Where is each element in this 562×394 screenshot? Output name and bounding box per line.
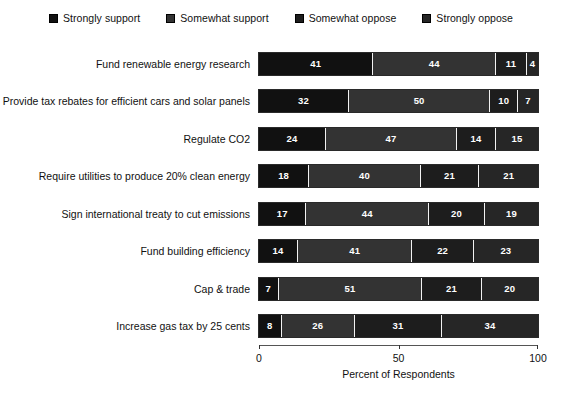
bar-row: 14412223: [259, 233, 538, 271]
bar-segment[interactable]: 8: [259, 315, 282, 337]
category-label: Fund building efficiency: [140, 245, 250, 257]
legend-item[interactable]: Somewhat support: [166, 13, 268, 24]
bar-row: 3250107: [259, 83, 538, 121]
bar-segment[interactable]: 4: [527, 53, 538, 75]
bar-segment[interactable]: 44: [306, 203, 429, 225]
stacked-bar[interactable]: 8263134: [259, 315, 538, 337]
chart-legend: Strongly supportSomewhat supportSomewhat…: [0, 13, 562, 24]
bar-value-label: 26: [312, 321, 323, 331]
legend-swatch-icon: [166, 14, 175, 23]
legend-label: Somewhat oppose: [309, 13, 397, 24]
bar-segment[interactable]: 22: [412, 240, 473, 262]
bar-segment[interactable]: 7: [259, 278, 279, 300]
category-label-row: Fund renewable energy research: [0, 45, 255, 83]
category-label: Sign international treaty to cut emissio…: [61, 208, 250, 220]
bar-segment[interactable]: 11: [496, 53, 527, 75]
bar-segment[interactable]: 24: [259, 128, 326, 150]
bar-segment[interactable]: 32: [259, 90, 349, 112]
stacked-bar[interactable]: 4144114: [259, 53, 538, 75]
bar-value-label: 44: [362, 209, 373, 219]
stacked-bar[interactable]: 3250107: [259, 90, 538, 112]
bar-segment[interactable]: 21: [421, 165, 480, 187]
category-label: Require utilities to produce 20% clean e…: [39, 170, 250, 182]
bar-row: 4144114: [259, 45, 538, 83]
category-label: Fund renewable energy research: [96, 58, 250, 70]
bar-value-label: 21: [503, 171, 514, 181]
x-axis-title: Percent of Respondents: [259, 368, 538, 380]
bar-value-label: 7: [266, 284, 271, 294]
bar-row: 8263134: [259, 308, 538, 346]
category-label-row: Increase gas tax by 25 cents: [0, 308, 255, 346]
bar-segment[interactable]: 15: [496, 128, 538, 150]
bar-segment[interactable]: 41: [298, 240, 412, 262]
legend-label: Somewhat support: [180, 13, 268, 24]
bar-value-label: 51: [345, 284, 356, 294]
stacked-bar[interactable]: 14412223: [259, 240, 538, 262]
bar-value-label: 4: [530, 59, 535, 69]
bar-value-label: 22: [437, 246, 448, 256]
bar-value-label: 17: [277, 209, 288, 219]
bar-segment[interactable]: 20: [482, 278, 538, 300]
bar-value-label: 7: [525, 96, 530, 106]
bar-segment[interactable]: 21: [479, 165, 538, 187]
x-axis-tick-label: 0: [256, 352, 262, 364]
stacked-bar[interactable]: 18402121: [259, 165, 538, 187]
bar-segment[interactable]: 51: [279, 278, 423, 300]
bar-segment[interactable]: 47: [326, 128, 457, 150]
category-label-row: Provide tax rebates for efficient cars a…: [0, 83, 255, 121]
category-axis-labels: Fund renewable energy researchProvide ta…: [0, 45, 255, 345]
bar-segment[interactable]: 34: [442, 315, 538, 337]
bar-value-label: 21: [444, 171, 455, 181]
stacked-bar[interactable]: 17442019: [259, 203, 538, 225]
bar-segment[interactable]: 31: [355, 315, 442, 337]
category-label-row: Sign international treaty to cut emissio…: [0, 195, 255, 233]
bar-segment[interactable]: 7: [518, 90, 538, 112]
category-label-row: Cap & trade: [0, 270, 255, 308]
bar-value-label: 23: [500, 246, 511, 256]
legend-label: Strongly support: [63, 13, 140, 24]
legend-item[interactable]: Somewhat oppose: [295, 13, 397, 24]
bar-value-label: 21: [446, 284, 457, 294]
legend-swatch-icon: [295, 14, 304, 23]
stacked-bar[interactable]: 24471415: [259, 128, 538, 150]
bar-row: 7512120: [259, 270, 538, 308]
legend-swatch-icon: [49, 14, 58, 23]
bar-value-label: 32: [298, 96, 309, 106]
bar-segment[interactable]: 40: [309, 165, 421, 187]
bar-value-label: 41: [310, 59, 321, 69]
bar-value-label: 31: [392, 321, 403, 331]
legend-item[interactable]: Strongly support: [49, 13, 140, 24]
bar-segment[interactable]: 14: [259, 240, 298, 262]
bar-value-label: 44: [429, 59, 440, 69]
bar-segment[interactable]: 19: [485, 203, 538, 225]
legend-item[interactable]: Strongly oppose: [422, 13, 513, 24]
x-axis-tick: [259, 345, 260, 349]
bar-value-label: 18: [278, 171, 289, 181]
bar-value-label: 11: [506, 59, 516, 69]
plot-area: 4144114325010724471415184021211744201914…: [259, 45, 538, 345]
bar-value-label: 47: [386, 134, 397, 144]
category-label: Provide tax rebates for efficient cars a…: [3, 95, 250, 107]
bar-value-label: 20: [451, 209, 462, 219]
bar-segment[interactable]: 26: [282, 315, 355, 337]
x-axis-tick-label: 50: [393, 352, 405, 364]
bar-segment[interactable]: 18: [259, 165, 309, 187]
bar-value-label: 34: [485, 321, 496, 331]
category-label-row: Require utilities to produce 20% clean e…: [0, 158, 255, 196]
bar-value-label: 40: [359, 171, 370, 181]
stacked-bar[interactable]: 7512120: [259, 278, 538, 300]
bar-segment[interactable]: 17: [259, 203, 306, 225]
bar-row: 17442019: [259, 195, 538, 233]
bar-segment[interactable]: 10: [490, 90, 518, 112]
bar-rows: 4144114325010724471415184021211744201914…: [259, 45, 538, 345]
bar-segment[interactable]: 23: [474, 240, 538, 262]
bar-segment[interactable]: 21: [422, 278, 481, 300]
bar-value-label: 41: [349, 246, 360, 256]
bar-segment[interactable]: 20: [429, 203, 485, 225]
bar-segment[interactable]: 44: [373, 53, 496, 75]
bar-segment[interactable]: 41: [259, 53, 373, 75]
bar-row: 18402121: [259, 158, 538, 196]
x-axis-tick: [537, 345, 538, 349]
bar-segment[interactable]: 14: [457, 128, 496, 150]
bar-segment[interactable]: 50: [349, 90, 490, 112]
